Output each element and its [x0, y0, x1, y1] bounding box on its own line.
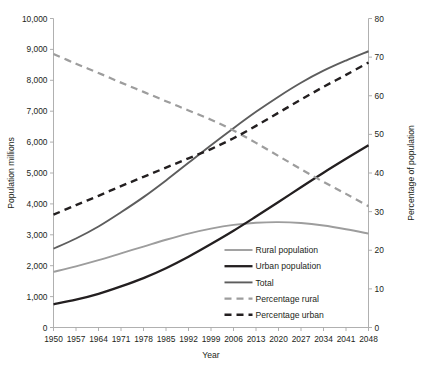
y-tick-label: 4,000: [27, 199, 48, 209]
x-tick-label: 2027: [292, 334, 311, 344]
x-axis-label: Year: [202, 350, 220, 360]
y-tick-label: 6,000: [27, 137, 48, 147]
y2-tick-label: 30: [375, 207, 385, 217]
x-tick-label: 1978: [134, 334, 153, 344]
y2-tick-label: 50: [375, 129, 385, 139]
x-tick-label: 2034: [314, 334, 333, 344]
x-tick-label: 1971: [112, 334, 131, 344]
y-tick-label: 10,000: [22, 14, 48, 24]
right-axis: 01020304050607080: [369, 14, 385, 333]
y-tick-label: 8,000: [27, 75, 48, 85]
x-tick-label: 1985: [157, 334, 176, 344]
y2-tick-label: 70: [375, 52, 385, 62]
y2-tick-label: 10: [375, 284, 385, 294]
y-axis-label: Population millions: [6, 137, 16, 209]
legend-item-label: Percentage rural: [256, 294, 320, 304]
x-tick-label: 1992: [179, 334, 198, 344]
x-tick-label: 2041: [337, 334, 356, 344]
y2-tick-label: 60: [375, 91, 385, 101]
y-tick-label: 0: [43, 323, 48, 333]
population-urbanization-chart: 01,0002,0003,0004,0005,0006,0007,0008,00…: [0, 0, 432, 370]
x-tick-label: 2006: [224, 334, 243, 344]
legend-item-label: Urban population: [256, 261, 322, 271]
legend-item-label: Percentage urban: [256, 310, 325, 320]
legend-item-label: Total: [256, 278, 274, 288]
y-tick-label: 2,000: [27, 261, 48, 271]
series-line-percentage-urban: [54, 63, 369, 215]
x-tick-label: 1999: [202, 334, 221, 344]
y-tick-label: 1,000: [27, 292, 48, 302]
left-axis: 01,0002,0003,0004,0005,0006,0007,0008,00…: [22, 14, 54, 333]
y2-axis-label: Percentage of population: [406, 125, 416, 221]
x-tick-label: 2020: [269, 334, 288, 344]
y-tick-label: 3,000: [27, 230, 48, 240]
y2-tick-label: 0: [375, 323, 380, 333]
y2-tick-label: 40: [375, 168, 385, 178]
series-line-percentage-rural: [54, 54, 369, 206]
y2-tick-label: 20: [375, 245, 385, 255]
series-line-rural-population: [54, 222, 369, 272]
chart-legend: Rural populationUrban populationTotalPer…: [225, 245, 325, 320]
y-tick-label: 9,000: [27, 44, 48, 54]
x-tick-label: 1950: [44, 334, 63, 344]
x-axis: 1950195719641971197819851992199920062013…: [44, 328, 378, 344]
y2-tick-label: 80: [375, 14, 385, 24]
x-tick-label: 2013: [247, 334, 266, 344]
legend-item-label: Rural population: [256, 245, 319, 255]
x-tick-label: 1964: [89, 334, 108, 344]
y-tick-label: 5,000: [27, 168, 48, 178]
y-tick-label: 7,000: [27, 106, 48, 116]
x-tick-label: 2048: [359, 334, 378, 344]
series-lines: [54, 51, 369, 304]
x-tick-label: 1957: [67, 334, 86, 344]
